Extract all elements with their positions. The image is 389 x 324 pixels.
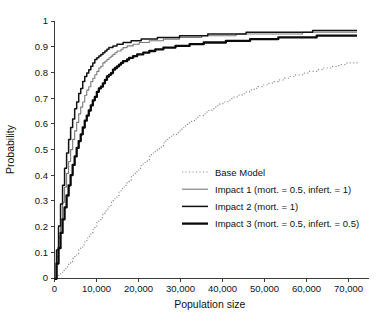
- x-tick-label: 10,000: [82, 283, 111, 294]
- x-tick-label: 40,000: [208, 283, 237, 294]
- x-tick-label: 70,000: [334, 283, 363, 294]
- series-lines: [55, 31, 358, 279]
- legend-label-2: Impact 1 (mort. = 0.5, infert. = 1): [215, 184, 351, 195]
- x-axis-title: Population size: [174, 298, 245, 310]
- figure-container: 00.10.20.30.40.50.60.70.80.91 010,00020,…: [0, 0, 389, 324]
- y-tick-label: 0.6: [35, 118, 48, 129]
- y-tick-label: 0.7: [35, 93, 48, 104]
- x-tick-label: 20,000: [124, 283, 153, 294]
- x-axis-ticks: 010,00020,00030,00040,00050,00060,00070,…: [52, 278, 363, 294]
- line-chart: 00.10.20.30.40.50.60.70.80.91 010,00020,…: [0, 0, 389, 324]
- y-tick-label: 0.8: [35, 67, 48, 78]
- y-tick-label: 0.4: [35, 170, 48, 181]
- y-tick-label: 1: [43, 15, 48, 26]
- y-tick-label: 0.5: [35, 144, 48, 155]
- chart-legend: Base ModelImpact 1 (mort. = 0.5, infert.…: [182, 167, 359, 230]
- y-axis-ticks: 00.10.20.30.40.50.60.70.80.91: [35, 15, 55, 283]
- y-axis-title: Probability: [4, 124, 16, 174]
- y-tick-label: 0.2: [35, 221, 48, 232]
- x-tick-label: 30,000: [166, 283, 195, 294]
- legend-label-3: Impact 2 (mort. = 1): [215, 201, 298, 212]
- x-tick-label: 50,000: [250, 283, 279, 294]
- series-line-4: [55, 36, 358, 279]
- x-tick-label: 60,000: [292, 283, 321, 294]
- x-tick-label: 0: [52, 283, 57, 294]
- y-tick-label: 0.3: [35, 195, 48, 206]
- legend-label-4: Impact 3 (mort. = 0.5, infert. = 0.5): [215, 218, 359, 229]
- y-tick-label: 0: [43, 272, 48, 283]
- y-tick-label: 0.9: [35, 41, 48, 52]
- series-line-1: [55, 61, 358, 279]
- series-line-2: [55, 32, 358, 278]
- legend-label-1: Base Model: [215, 167, 265, 178]
- y-tick-label: 0.1: [35, 247, 48, 258]
